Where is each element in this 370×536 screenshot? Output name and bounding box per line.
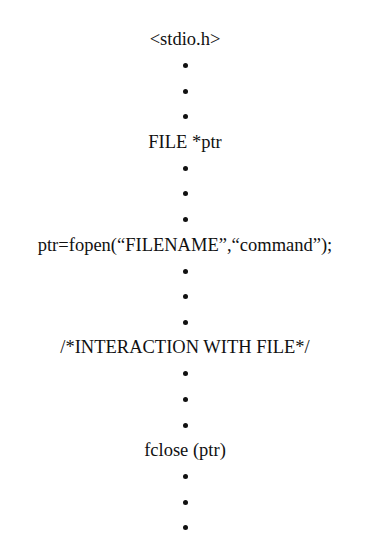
dot-icon (183, 284, 188, 310)
step-declare-pointer: FILE *ptr (148, 130, 221, 156)
dot-icon (183, 515, 188, 536)
dot-icon (183, 387, 188, 413)
file-handling-flow: <stdio.h> FILE *ptr ptr=fopen(“FILENAME”… (0, 27, 370, 536)
dot-icon (183, 258, 188, 284)
dot-icon (183, 181, 188, 207)
dot-icon (183, 104, 188, 130)
step-interaction-comment: /*INTERACTION WITH FILE*/ (60, 335, 309, 361)
dot-icon (183, 53, 188, 79)
dot-icon (183, 412, 188, 438)
step-include-header: <stdio.h> (150, 27, 221, 53)
dot-icon (183, 310, 188, 336)
step-close-file: fclose (ptr) (144, 438, 226, 464)
dot-icon (183, 464, 188, 490)
dot-icon (183, 78, 188, 104)
dot-icon (183, 207, 188, 233)
step-open-file: ptr=fopen(“FILENAME”,“command”); (38, 233, 333, 259)
dot-icon (183, 155, 188, 181)
dot-icon (183, 489, 188, 515)
dot-icon (183, 361, 188, 387)
